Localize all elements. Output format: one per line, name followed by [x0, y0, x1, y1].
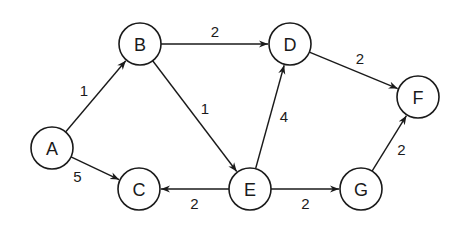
node-label: B [134, 35, 146, 55]
edge-weight-label: 4 [280, 108, 288, 125]
node-g: G [340, 168, 382, 210]
edge-weight-label: 2 [356, 50, 364, 67]
node-label: G [354, 180, 368, 200]
node-c: C [118, 168, 160, 210]
edge-g-f: 2 [372, 116, 406, 171]
edge-a-b: 1 [66, 61, 126, 132]
node-label: D [284, 35, 297, 55]
edge-a-c: 5 [71, 157, 119, 185]
edge-weight-label: 2 [211, 23, 219, 40]
node-e: E [229, 168, 271, 210]
edge-line [66, 61, 126, 132]
edge-b-e: 1 [153, 61, 237, 172]
edge-e-g: 2 [271, 189, 339, 212]
edge-line [153, 61, 237, 172]
edge-weight-label: 2 [397, 141, 405, 158]
edge-weight-label: 2 [301, 195, 309, 212]
edge-e-d: 4 [256, 65, 289, 169]
edge-e-c: 2 [161, 189, 229, 212]
edge-weight-label: 5 [73, 168, 81, 185]
node-label: F [413, 88, 424, 108]
node-label: C [133, 180, 146, 200]
nodes-layer: ABCDEFG [31, 23, 439, 210]
graph-diagram: 152142222 ABCDEFG [0, 0, 464, 234]
edge-weight-label: 1 [201, 100, 209, 117]
node-d: D [269, 23, 311, 65]
edge-b-d: 2 [161, 23, 268, 45]
edge-weight-label: 2 [190, 195, 198, 212]
edge-weight-label: 1 [80, 82, 88, 99]
edge-line [309, 52, 397, 89]
node-b: B [119, 23, 161, 65]
node-f: F [397, 76, 439, 118]
edge-d-f: 2 [309, 50, 397, 89]
node-a: A [31, 127, 73, 169]
node-label: A [46, 139, 58, 159]
node-label: E [244, 180, 256, 200]
